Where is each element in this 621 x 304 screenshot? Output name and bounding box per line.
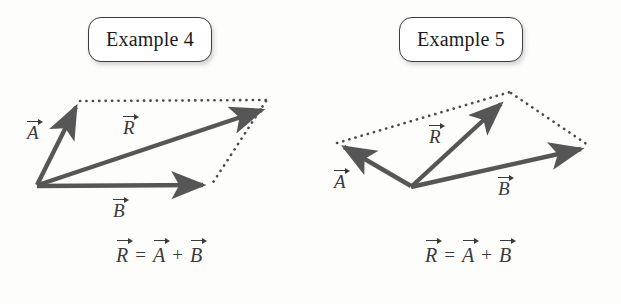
example-4-label-chip: Example 4 <box>88 17 212 62</box>
vector-arrow-accent-icon <box>26 118 39 125</box>
example-5-equation: R = A + B <box>425 244 511 267</box>
example-5-panel: Example 5 A R <box>311 0 621 304</box>
vector-b-label: B <box>497 174 510 198</box>
vector-a-label: A <box>26 118 39 142</box>
equation-a-term: A <box>462 244 474 267</box>
equation-a-term: A <box>153 244 165 267</box>
example-4-panel: Example 4 A R <box>0 0 310 304</box>
vector-r-label: R <box>428 122 441 146</box>
vector-addition-figure: Example 4 A R <box>0 0 621 304</box>
example-4-label-text: Example 4 <box>106 28 194 51</box>
dotted-side-top <box>80 100 266 101</box>
example-4-equation: R = A + B <box>116 244 202 267</box>
vector-arrow-accent-icon <box>112 196 125 203</box>
vector-a-arrow <box>344 147 411 186</box>
equation-r-term: R <box>425 244 437 267</box>
vector-r-arrow <box>38 110 262 185</box>
vector-b-arrow <box>411 149 581 187</box>
equation-equals-sign: = <box>442 244 457 267</box>
equation-plus-sign: + <box>170 244 185 267</box>
vector-b-label: B <box>112 196 125 220</box>
equation-plus-sign: + <box>479 244 494 267</box>
vector-r-label: R <box>122 113 135 137</box>
example-5-label-chip: Example 5 <box>399 17 523 62</box>
vector-arrow-accent-icon <box>122 113 135 120</box>
vector-b-arrow <box>37 185 203 186</box>
equation-b-term: B <box>499 244 511 267</box>
vector-arrow-accent-icon <box>428 122 441 129</box>
vector-arrow-accent-icon <box>497 174 510 181</box>
vector-arrow-accent-icon <box>333 167 346 174</box>
vector-r-arrow <box>412 104 501 186</box>
example-5-label-text: Example 5 <box>417 28 505 51</box>
equation-equals-sign: = <box>133 244 148 267</box>
equation-b-term: B <box>190 244 202 267</box>
vector-a-label: A <box>333 167 346 191</box>
dotted-side-upper-right <box>511 93 588 145</box>
equation-r-term: R <box>116 244 128 267</box>
